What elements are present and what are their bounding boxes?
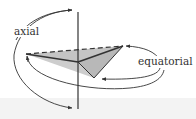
left-vertex-arrow — [27, 56, 28, 62]
axial-label: axial — [14, 25, 40, 37]
equatorial-label: equatorial — [138, 55, 193, 67]
equatorial-arrow-lower — [102, 68, 160, 79]
axial-equatorial-diagram: axial equatorial — [0, 0, 196, 119]
